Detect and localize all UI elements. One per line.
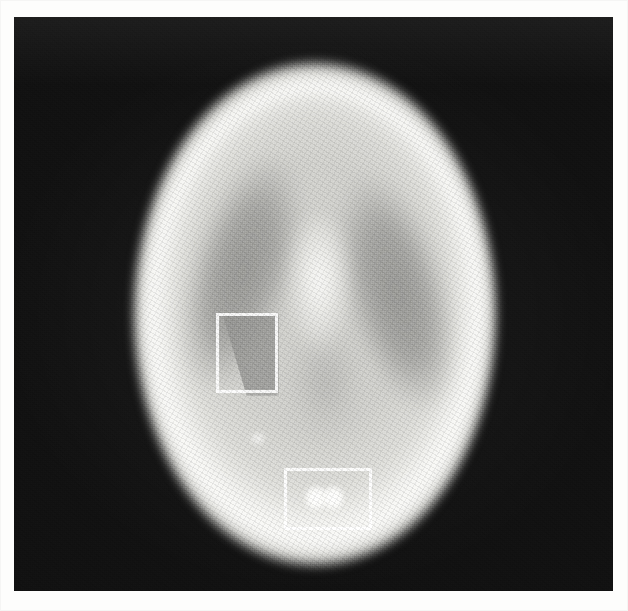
hot-spot-stray-lesion xyxy=(250,433,266,444)
figure-caption xyxy=(0,0,1,1)
roi-box-1[interactable] xyxy=(216,313,278,393)
phantom-figure xyxy=(0,0,628,611)
scan-image-canvas xyxy=(14,17,613,591)
roi-box-2[interactable] xyxy=(284,468,372,530)
septum-hot-wedge xyxy=(286,213,352,363)
